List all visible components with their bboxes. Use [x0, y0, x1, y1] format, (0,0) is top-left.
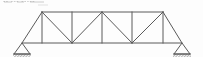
scan-noise	[4, 2, 48, 5]
diagonal-member-3	[102, 12, 132, 43]
diagonal-member-4	[132, 12, 163, 43]
truss-diagram-svg	[0, 0, 203, 57]
right-pin-support	[173, 43, 191, 57]
truss-members	[22, 12, 182, 43]
truss-figure: -- --- -----	[0, 0, 203, 57]
diagonal-member-2	[72, 12, 102, 43]
diagonal-member-1	[42, 12, 72, 43]
left-pin-support	[13, 43, 31, 57]
end-post-right-member	[163, 12, 182, 43]
end-post-left-member	[22, 12, 42, 43]
